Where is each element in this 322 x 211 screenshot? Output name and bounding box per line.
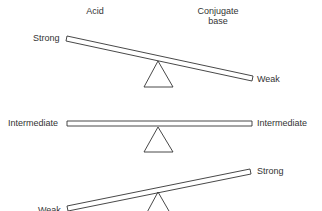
- seesaw-3-right-label: Strong: [257, 166, 284, 176]
- seesaw-2-right-label: Intermediate: [257, 118, 307, 128]
- seesaw-3-left-label: Weak: [38, 205, 61, 211]
- seesaw-2-beam: [67, 121, 252, 126]
- seesaw-2-fulcrum: [144, 127, 173, 152]
- acid-base-seesaw-diagram: Acid Conjugate base Strong Weak Intermed…: [0, 0, 322, 211]
- seesaw-drawings: [0, 0, 322, 211]
- seesaw-1-beam: [66, 36, 253, 81]
- seesaw-1-left-label: Strong: [33, 33, 60, 43]
- seesaw-3-beam: [67, 169, 251, 211]
- seesaw-2-left-label: Intermediate: [8, 118, 58, 128]
- seesaw-1-right-label: Weak: [257, 74, 280, 84]
- seesaw-1-fulcrum: [144, 61, 173, 87]
